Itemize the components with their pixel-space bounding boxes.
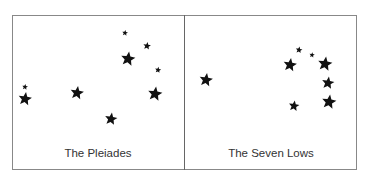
panel-pleiades: The Pleiades [12,15,184,170]
panel-seven-lows: The Seven Lows [185,15,357,170]
panel-caption: The Pleiades [12,147,184,159]
panel-caption: The Seven Lows [185,147,357,159]
